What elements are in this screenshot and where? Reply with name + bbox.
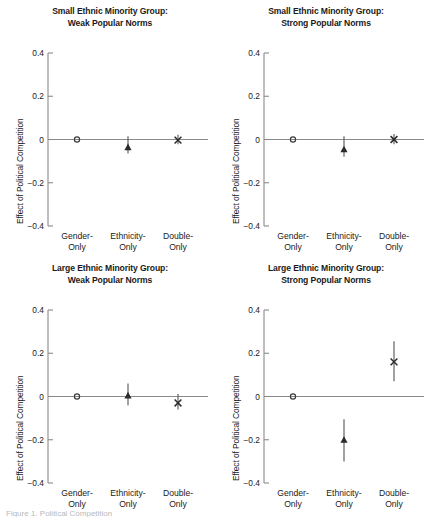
x-category-label: Double-Only <box>362 231 426 253</box>
y-tick-label: 0.2 <box>218 348 260 358</box>
chart-panel-small-strong: Small Ethnic Minority Group: Strong Popu… <box>216 0 432 257</box>
y-axis-label: Effect of Political Competition <box>231 375 241 481</box>
data-point-triangle <box>124 136 131 153</box>
marker-triangle-icon <box>124 392 131 399</box>
y-tick-label: 0.4 <box>2 48 44 58</box>
data-point-triangle <box>124 384 131 406</box>
x-category-label-line2: Only <box>146 242 210 253</box>
y-tick-label: 0.2 <box>2 91 44 101</box>
x-category-label-line1: Double- <box>146 231 210 242</box>
x-category-label-line2: Only <box>146 499 210 510</box>
marker-triangle-icon <box>340 146 347 153</box>
y-axis-label: Effect of Political Competition <box>231 118 241 224</box>
x-category-label-line2: Only <box>362 499 426 510</box>
x-category-label-line1: Double- <box>362 488 426 499</box>
chart-panel-large-strong: Large Ethnic Minority Group: Strong Popu… <box>216 257 432 514</box>
y-tick-label: 0.4 <box>2 305 44 315</box>
data-point-triangle <box>340 419 347 461</box>
chart-panel-small-weak: Small Ethnic Minority Group: Weak Popula… <box>0 0 216 257</box>
plot-area <box>216 0 432 257</box>
x-category-label-line2: Only <box>362 242 426 253</box>
figure-caption: Figure 1. Political Competition <box>6 509 112 517</box>
y-axis-label: Effect of Political Competition <box>15 118 25 224</box>
plot-area <box>0 257 216 514</box>
y-tick-label: 0.4 <box>218 48 260 58</box>
plot-area <box>0 0 216 257</box>
y-tick-label: 0.2 <box>2 348 44 358</box>
marker-triangle-icon <box>340 436 347 443</box>
y-tick-label: 0.2 <box>218 91 260 101</box>
x-category-label: Double-Only <box>146 488 210 510</box>
y-tick-label: 0.4 <box>218 305 260 315</box>
plot-area <box>216 257 432 514</box>
data-point-cross <box>391 341 398 381</box>
y-axis-label: Effect of Political Competition <box>15 375 25 481</box>
marker-triangle-icon <box>124 143 131 150</box>
x-category-label: Double-Only <box>362 488 426 510</box>
x-category-label-line1: Double- <box>362 231 426 242</box>
x-category-label-line1: Double- <box>146 488 210 499</box>
chart-panel-large-weak: Large Ethnic Minority Group: Weak Popula… <box>0 257 216 514</box>
x-category-label: Double-Only <box>146 231 210 253</box>
